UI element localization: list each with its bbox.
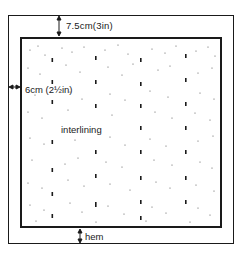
diagram-overlay xyxy=(0,0,242,254)
stipple-pattern xyxy=(27,44,215,222)
hem-label: hem xyxy=(85,232,103,242)
top-margin-label: 7.5cm(3in) xyxy=(66,21,113,31)
dimension-arrow-hem xyxy=(78,229,82,243)
dimension-arrow-left xyxy=(9,85,20,89)
side-margin-label: 6cm (2½in) xyxy=(25,85,73,95)
interlining-label: interlining xyxy=(61,125,102,135)
bold-dash-rows xyxy=(52,54,187,220)
dimension-arrow-top xyxy=(57,16,61,36)
